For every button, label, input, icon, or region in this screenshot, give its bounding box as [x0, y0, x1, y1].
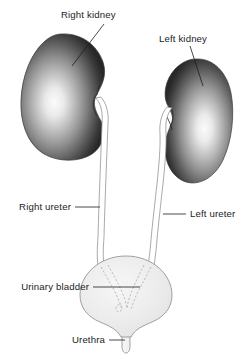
left-kidney: [165, 59, 233, 183]
label-left-ureter: Left ureter: [190, 208, 236, 219]
urinary-bladder: [80, 256, 172, 337]
label-right-kidney: Right kidney: [61, 9, 116, 20]
right-kidney: [21, 34, 105, 160]
anatomy-figure: Right kidney Left kidney Right ureter Le…: [0, 0, 252, 363]
label-urinary-bladder: Urinary bladder: [21, 281, 89, 292]
label-left-kidney: Left kidney: [159, 33, 207, 44]
label-urethra: Urethra: [72, 334, 106, 345]
label-right-ureter: Right ureter: [19, 201, 72, 212]
urinary-system-diagram: Right kidney Left kidney Right ureter Le…: [0, 0, 252, 363]
